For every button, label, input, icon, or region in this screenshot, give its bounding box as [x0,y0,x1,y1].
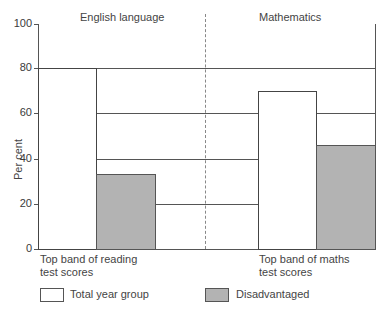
category-label-reading: Top band of reading test scores [40,253,137,279]
level-line-20 [155,204,258,205]
category-label-maths-line1: Top band of maths [259,253,350,266]
y-tick-label-20: 20 [4,197,32,209]
legend-label-total: Total year group [70,288,149,300]
category-label-reading-line2: test scores [40,266,137,279]
bar-english-disadvantaged [96,174,156,250]
legend-swatch-disadvantaged [205,288,229,302]
y-tick-100 [34,24,38,25]
y-tick-label-100: 100 [4,17,32,29]
category-label-maths: Top band of maths test scores [259,253,350,279]
y-tick-label-0: 0 [4,242,32,254]
bar-maths-disadvantaged [316,145,376,250]
category-label-maths-line2: test scores [259,266,350,279]
legend-swatch-total [40,288,64,302]
level-line-40 [96,159,258,160]
y-tick-label-60: 60 [4,106,32,118]
legend-label-disadvantaged: Disadvantaged [236,288,309,300]
panel-title-english: English language [80,11,164,23]
level-line-60 [96,113,375,114]
panel-title-mathematics: Mathematics [259,11,321,23]
panel-divider [205,14,206,249]
y-axis-title: Per cent [12,139,24,180]
y-tick-label-80: 80 [4,61,32,73]
category-label-reading-line1: Top band of reading [40,253,137,266]
bar-maths-total [258,91,317,250]
bar-english-total [38,68,97,250]
